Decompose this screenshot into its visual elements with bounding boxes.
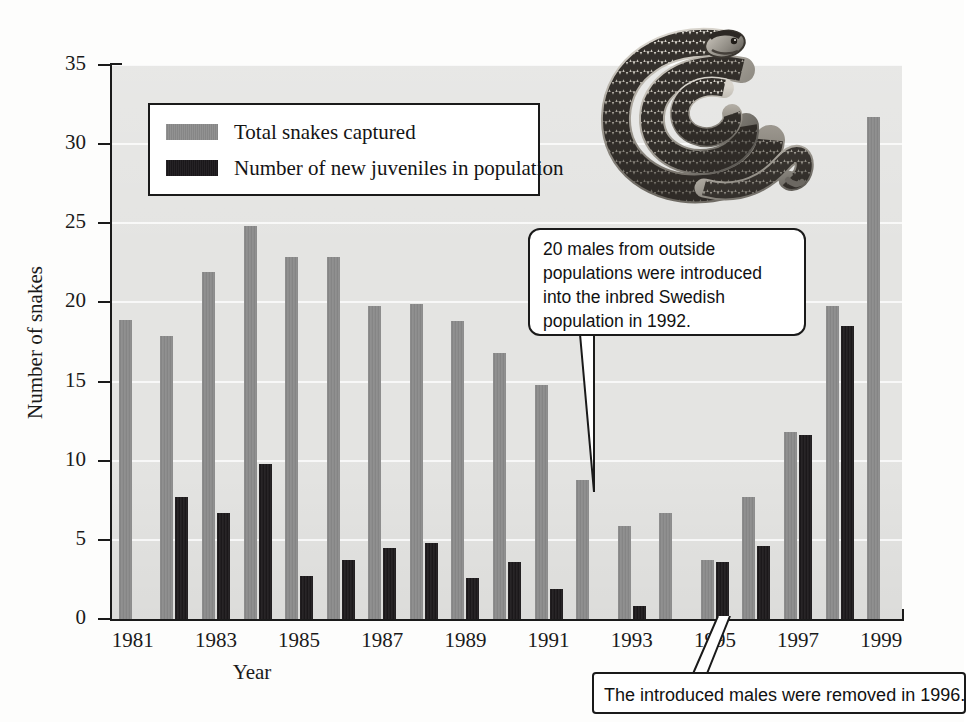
x-tick-label-1985: 1985	[259, 628, 339, 653]
bar-total-1991	[535, 385, 548, 619]
bar-juveniles-1997	[799, 435, 812, 619]
y-tick-20	[98, 301, 111, 303]
bar-total-1983	[202, 272, 215, 619]
legend-item-total[interactable]: Total snakes captured	[166, 114, 524, 150]
callout-males-introduced: 20 males from outside populations were i…	[528, 228, 806, 336]
bar-juveniles-1984	[259, 464, 272, 619]
bar-total-1994	[659, 513, 672, 619]
legend-swatch-total-icon	[166, 124, 218, 140]
x-tick-label-1997: 1997	[758, 628, 838, 653]
gridline-15	[112, 381, 902, 383]
y-tick-15	[98, 381, 111, 383]
bar-juveniles-1985	[300, 576, 313, 619]
y-axis-line	[110, 63, 112, 621]
x-tick-label-1999: 1999	[841, 628, 921, 653]
y-tick-label-30: 30	[44, 130, 86, 155]
bar-juveniles-1987	[383, 548, 396, 619]
bar-total-1996	[742, 497, 755, 619]
y-tick-label-20: 20	[44, 288, 86, 313]
y-tick-5	[98, 539, 111, 541]
bar-total-1987	[368, 306, 381, 619]
bar-total-1984	[244, 226, 257, 619]
y-tick-label-5: 5	[44, 526, 86, 551]
y-tick-35	[98, 64, 111, 66]
x-tick-label-1991: 1991	[509, 628, 589, 653]
x-tick-label-1981: 1981	[93, 628, 173, 653]
legend-label-juveniles: Number of new juveniles in population	[234, 156, 564, 181]
bar-total-1985	[285, 257, 298, 619]
bar-total-1981	[119, 320, 132, 619]
x-tick-label-1993: 1993	[592, 628, 672, 653]
adder-snake-illustration-icon	[592, 22, 822, 207]
bar-total-1992	[576, 480, 589, 619]
y-tick-label-35: 35	[44, 51, 86, 76]
y-tick-label-15: 15	[44, 368, 86, 393]
legend-item-juveniles[interactable]: Number of new juveniles in population	[166, 150, 524, 186]
bar-juveniles-1995	[716, 562, 729, 619]
bar-total-1999	[867, 117, 880, 619]
bar-total-1995	[701, 560, 714, 619]
bar-total-1988	[410, 304, 423, 619]
y-tick-label-0: 0	[44, 605, 86, 630]
bar-total-1993	[618, 526, 631, 619]
bar-juveniles-1983	[217, 513, 230, 619]
x-axis-line	[110, 619, 904, 621]
bar-total-1997	[784, 432, 797, 619]
x-tick-label-1987: 1987	[342, 628, 422, 653]
y-axis-top-cap	[110, 63, 122, 65]
gridline-25	[112, 222, 902, 224]
x-tick-label-1995: 1995	[675, 628, 755, 653]
legend-label-total: Total snakes captured	[234, 120, 416, 145]
bar-juveniles-1998	[841, 326, 854, 619]
y-tick-30	[98, 143, 111, 145]
bar-juveniles-1990	[508, 562, 521, 619]
x-axis-right-cap	[902, 609, 904, 621]
x-tick-label-1983: 1983	[176, 628, 256, 653]
bar-total-1982	[160, 336, 173, 619]
bar-juveniles-1991	[550, 589, 563, 619]
y-tick-0	[98, 618, 111, 620]
y-axis-title: Number of snakes	[23, 178, 48, 508]
y-tick-25	[98, 222, 111, 224]
bar-total-1998	[826, 306, 839, 619]
bar-juveniles-1986	[342, 560, 355, 619]
bar-total-1989	[451, 321, 464, 619]
y-tick-label-25: 25	[44, 209, 86, 234]
bar-juveniles-1988	[425, 543, 438, 619]
bar-total-1990	[493, 353, 506, 619]
callout-males-removed: The introduced males were removed in 199…	[592, 672, 966, 714]
bar-juveniles-1982	[175, 497, 188, 619]
x-axis-title-text: Year	[233, 660, 272, 685]
y-tick-label-10: 10	[44, 447, 86, 472]
bar-total-1986	[327, 257, 340, 619]
x-tick-label-1989: 1989	[425, 628, 505, 653]
bar-juveniles-1989	[466, 578, 479, 619]
chart-legend: Total snakes captured Number of new juve…	[148, 103, 540, 196]
legend-swatch-juveniles-icon	[166, 160, 218, 176]
bar-juveniles-1993	[633, 606, 646, 619]
bar-juveniles-1996	[757, 546, 770, 619]
y-tick-10	[98, 460, 111, 462]
